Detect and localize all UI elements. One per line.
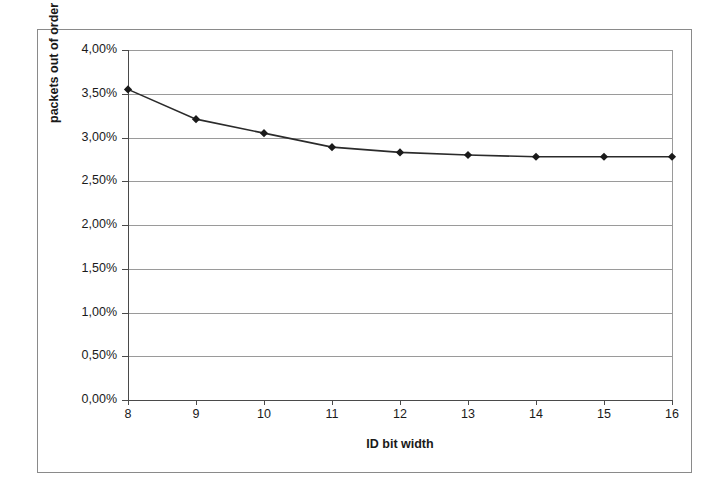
y-tick-label-0-50: 0,50% xyxy=(62,349,117,362)
x-tick-mark xyxy=(332,400,333,405)
y-tick-mark xyxy=(122,356,128,357)
x-tick-label-14: 14 xyxy=(516,408,556,421)
x-tick-label-13: 13 xyxy=(448,408,488,421)
gridline-2-50 xyxy=(128,181,672,182)
plot-right-edge xyxy=(672,50,673,400)
y-tick-mark xyxy=(122,138,128,139)
y-tick-label-1-00: 1,00% xyxy=(62,306,117,319)
y-tick-mark xyxy=(122,94,128,95)
y-tick-mark xyxy=(122,181,128,182)
x-tick-mark xyxy=(264,400,265,405)
x-tick-mark xyxy=(604,400,605,405)
x-tick-mark xyxy=(128,400,129,405)
x-tick-label-9: 9 xyxy=(176,408,216,421)
y-tick-label-3-00: 3,00% xyxy=(62,131,117,144)
x-tick-label-12: 12 xyxy=(380,408,420,421)
y-tick-label-0-00: 0,00% xyxy=(62,393,117,406)
x-tick-label-15: 15 xyxy=(584,408,624,421)
gridline-2-00 xyxy=(128,225,672,226)
gridline-4-00 xyxy=(128,50,672,51)
y-tick-label-4-00: 4,00% xyxy=(62,43,117,56)
gridline-0-50 xyxy=(128,356,672,357)
y-tick-mark xyxy=(122,269,128,270)
x-tick-mark xyxy=(196,400,197,405)
gridline-1-00 xyxy=(128,313,672,314)
x-tick-label-11: 11 xyxy=(312,408,352,421)
y-tick-mark xyxy=(122,225,128,226)
x-tick-mark xyxy=(536,400,537,405)
y-tick-label-2-50: 2,50% xyxy=(62,174,117,187)
x-tick-label-8: 8 xyxy=(108,408,148,421)
y-tick-mark xyxy=(122,313,128,314)
y-axis-title: packets out of order xyxy=(47,0,63,123)
y-tick-label-1-50: 1,50% xyxy=(62,262,117,275)
x-tick-mark xyxy=(672,400,673,405)
gridline-3-50 xyxy=(128,94,672,95)
x-tick-label-10: 10 xyxy=(244,408,284,421)
chart-figure: packets out of order 4,00% 3,50% 3,00% 2… xyxy=(0,0,724,496)
plot-area xyxy=(128,50,672,400)
x-axis-title: ID bit width xyxy=(128,437,672,451)
y-axis-line xyxy=(128,50,129,400)
y-tick-mark xyxy=(122,50,128,51)
gridline-1-50 xyxy=(128,269,672,270)
x-tick-mark xyxy=(400,400,401,405)
x-tick-label-16: 16 xyxy=(652,408,692,421)
y-tick-label-2-00: 2,00% xyxy=(62,218,117,231)
x-tick-mark xyxy=(468,400,469,405)
y-tick-label-3-50: 3,50% xyxy=(62,87,117,100)
gridline-3-00 xyxy=(128,138,672,139)
